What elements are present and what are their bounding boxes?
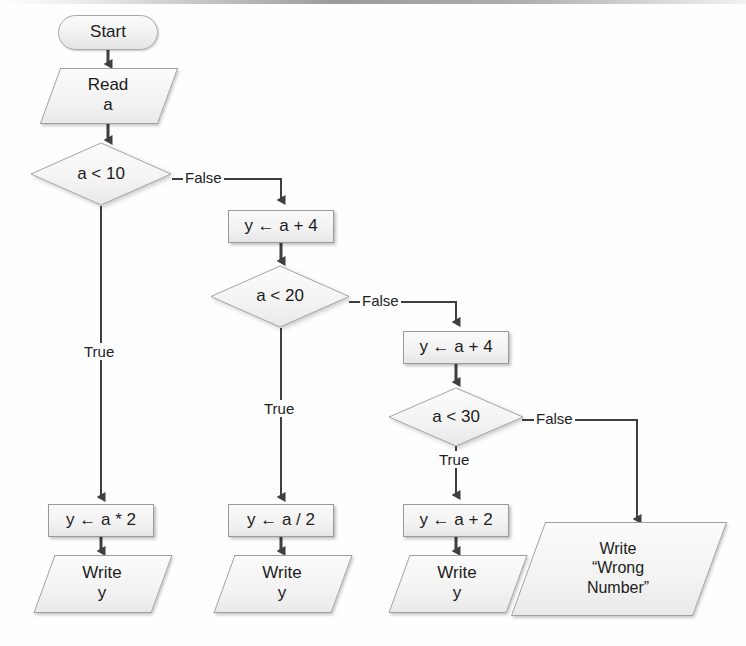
edge-label-true-2: True: [262, 400, 296, 417]
node-process-y-a-plus-4-second-label: y ← a + 4: [419, 337, 492, 357]
node-start[interactable]: Start: [58, 15, 158, 50]
node-decision-a-lt-10[interactable]: a < 10: [30, 142, 172, 206]
node-read-a-label: Read a: [50, 75, 166, 116]
node-write-y-first[interactable]: Write y: [44, 555, 160, 611]
node-read-a[interactable]: Read a: [50, 68, 166, 122]
node-write-y-first-label: Write y: [44, 563, 160, 604]
node-process-y-a-div-2-label: y ← a / 2: [247, 510, 315, 530]
node-process-y-a-times-2-label: y ← a * 2: [66, 510, 136, 530]
node-decision-a-lt-20[interactable]: a < 20: [210, 265, 350, 328]
node-write-y-second[interactable]: Write y: [224, 555, 340, 611]
node-decision-a-lt-30[interactable]: a < 30: [388, 387, 524, 447]
top-edge-artifact: [0, 0, 746, 4]
edge-label-false-3: False: [534, 410, 575, 427]
node-write-wrong-number[interactable]: Write “Wrong Number”: [528, 522, 708, 614]
node-write-wrong-number-label: Write “Wrong Number”: [528, 539, 708, 597]
node-process-y-a-div-2[interactable]: y ← a / 2: [228, 504, 334, 537]
node-process-y-a-plus-4-first-label: y ← a + 4: [244, 216, 317, 236]
edge-label-false-2: False: [360, 292, 401, 309]
flowchart-canvas: Start Read a a < 10 y ← a + 4 a < 20 y ←…: [0, 0, 746, 646]
node-process-y-a-plus-4-second[interactable]: y ← a + 4: [403, 331, 509, 364]
edge-label-false-1: False: [183, 169, 224, 186]
edge-label-true-1: True: [82, 343, 116, 360]
node-process-y-a-plus-4-first[interactable]: y ← a + 4: [228, 210, 334, 243]
node-process-y-a-plus-2-label: y ← a + 2: [419, 510, 492, 530]
node-process-y-a-plus-2[interactable]: y ← a + 2: [403, 504, 509, 537]
node-decision-a-lt-30-label: a < 30: [388, 407, 524, 427]
node-write-y-third[interactable]: Write y: [399, 555, 515, 611]
node-write-y-second-label: Write y: [224, 563, 340, 604]
edge-label-true-3: True: [437, 451, 471, 468]
node-decision-a-lt-20-label: a < 20: [210, 286, 350, 306]
node-start-label: Start: [90, 22, 126, 42]
node-decision-a-lt-10-label: a < 10: [30, 164, 172, 184]
node-process-y-a-times-2[interactable]: y ← a * 2: [48, 504, 154, 537]
node-write-y-third-label: Write y: [399, 563, 515, 604]
